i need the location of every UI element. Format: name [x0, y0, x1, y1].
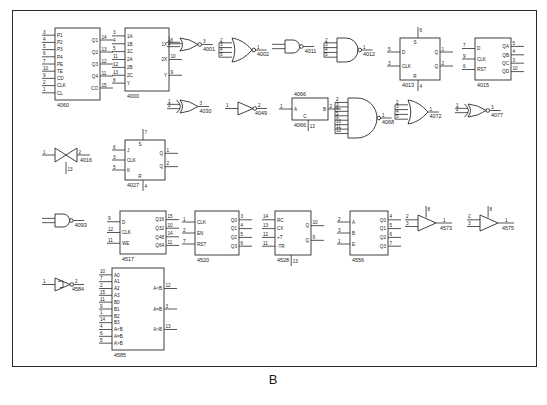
- label-text: RC: [277, 218, 284, 223]
- label-text: 11: [102, 71, 107, 76]
- label-text: 5: [396, 114, 399, 119]
- label-text: R: [413, 74, 417, 79]
- label-text: Q3: [231, 244, 238, 249]
- component-4072: 234514072: [395, 100, 442, 124]
- label-text: 6: [463, 64, 466, 69]
- label-text: 10: [171, 54, 177, 59]
- label-text: RST: [197, 242, 206, 247]
- label-text: A=B: [153, 307, 162, 312]
- component-4015: 7D9CLK6RST5QA4QB3QC10QD4015: [462, 38, 524, 88]
- inversion-bubble: [252, 48, 256, 52]
- label-text: 3: [203, 39, 206, 44]
- or-shape: [180, 100, 198, 113]
- and-shape: [348, 98, 377, 138]
- label-text: 2: [43, 80, 46, 85]
- component-4013: 5D3CLK1Q2Q6S4R4013: [387, 27, 453, 91]
- component-4573: 23814573: [405, 206, 452, 231]
- label-text: 15: [168, 214, 174, 219]
- component-4016: 12134016: [42, 148, 92, 174]
- label-text: 9: [313, 235, 316, 240]
- label-text: 5: [113, 46, 116, 51]
- label-text: CLK: [197, 220, 207, 225]
- triangle-shape: [238, 102, 253, 115]
- label-text: 2: [100, 283, 103, 288]
- label-text: CLK: [127, 158, 137, 163]
- label-text: P4: [57, 55, 63, 60]
- label-text: 12: [263, 232, 269, 237]
- label-text: 5: [325, 52, 328, 57]
- label-text: 4556: [352, 257, 364, 263]
- label-text: 12: [336, 128, 342, 133]
- label-text: 1: [443, 218, 446, 223]
- label-text: 1X: [161, 42, 167, 47]
- label-text: B1: [114, 307, 120, 312]
- label-text: RST: [477, 67, 486, 72]
- label-text: 4585: [114, 352, 126, 358]
- label-text: Q2: [380, 235, 387, 240]
- component-4093: 4093: [42, 214, 87, 228]
- label-text: P2: [57, 40, 63, 45]
- triangle-shape: [418, 215, 436, 231]
- label-text: 10: [168, 223, 174, 228]
- label-text: 4068: [382, 119, 394, 125]
- label-text: A=B: [114, 334, 123, 339]
- label-text: TE: [57, 69, 63, 74]
- component-4060: 3P14P25P36P47PE10TE9CD2CLK1CL14Q113Q212Q…: [42, 28, 113, 108]
- label-text: 2: [468, 214, 471, 219]
- or-extra-arc: [465, 104, 469, 117]
- label-text: CX: [277, 226, 283, 231]
- inversion-bubble: [70, 219, 74, 223]
- label-text: A>B: [114, 341, 123, 346]
- label-text: 2C: [127, 73, 134, 78]
- label-text: 3: [200, 101, 203, 106]
- label-text: 5: [388, 47, 391, 52]
- schematic-page: 3P14P25P36P47PE10TE9CD2CLK1CL14Q113Q212Q…: [0, 0, 547, 405]
- label-text: 7: [183, 239, 186, 244]
- label-text: J: [127, 148, 129, 153]
- label-text: 1C: [127, 49, 134, 54]
- label-text: 4: [43, 37, 46, 42]
- label-text: 4: [420, 84, 423, 89]
- label-text: 5: [100, 338, 103, 343]
- label-text: 13: [102, 47, 108, 52]
- label-text: 2X: [161, 57, 167, 62]
- label-text: 4015: [477, 82, 489, 88]
- component-4000: 31A41B51C112A122B132C8Y61X102X9Y4000: [112, 28, 182, 99]
- label-text: 4528: [277, 257, 289, 263]
- or-extra-arc: [177, 100, 181, 113]
- label-text: A>B: [153, 327, 162, 332]
- component-4575: 23814575: [467, 206, 514, 231]
- label-text: 15: [102, 83, 108, 88]
- label-text: 4000: [127, 93, 139, 99]
- label-text: 11: [113, 54, 118, 59]
- component-4517: 9D12CLK11WE15Q1610Q3214Q4811Q644517: [107, 211, 179, 262]
- component-4066: 1A2B13C40664066: [279, 91, 341, 132]
- label-text: 4011: [305, 48, 317, 54]
- and-shape: [337, 38, 358, 62]
- label-text: 4016: [80, 157, 92, 163]
- label-text: 5: [43, 44, 46, 49]
- inversion-bubble: [486, 109, 490, 113]
- label-text: 8: [428, 207, 431, 212]
- label-text: 1: [442, 47, 445, 52]
- label-text: 6: [420, 28, 423, 33]
- component-4001: 1234001: [167, 37, 215, 51]
- label-text: 4060: [57, 102, 69, 108]
- label-text: 3: [113, 155, 116, 160]
- label-text: 4575: [502, 225, 514, 231]
- inversion-bubble: [377, 116, 381, 120]
- label-text: Q: [434, 50, 438, 55]
- label-text: 3: [241, 214, 244, 219]
- label-text: 11: [108, 238, 113, 243]
- label-text: 1: [183, 217, 186, 222]
- label-text: 11: [263, 241, 268, 246]
- label-text: 13: [263, 223, 269, 228]
- label-text: 12: [113, 62, 119, 67]
- label-text: 9: [171, 70, 174, 75]
- label-text: Q: [159, 151, 163, 156]
- label-text: 1B: [127, 42, 133, 47]
- label-text: 4001: [203, 46, 215, 52]
- label-text: 4013: [402, 82, 414, 88]
- label-text: Q3: [92, 62, 99, 67]
- label-text: -TR: [277, 244, 285, 249]
